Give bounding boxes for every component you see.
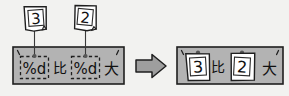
result-note-2[interactable]: 2 <box>230 52 256 82</box>
pin-dot-2 <box>83 54 87 58</box>
result-note-3-value: 3 <box>192 57 203 77</box>
pin-dot-1 <box>32 54 36 58</box>
result-note-3[interactable]: 3 <box>186 52 211 81</box>
format-literal-1: 比 <box>53 60 67 76</box>
sticky-note-3[interactable]: 3 <box>24 5 48 31</box>
result-literal-1: 比 <box>211 59 225 75</box>
sticky-note-3-value: 3 <box>31 10 42 29</box>
diagram-canvas: %d 比 %d 大 3 2 3 比 <box>0 0 289 96</box>
sticky-note-2-value: 2 <box>80 9 91 28</box>
placeholder-token-1: %d <box>23 60 47 78</box>
result-literal-2: 大 <box>262 60 277 78</box>
placeholder-token-2: %d <box>74 60 98 78</box>
sticky-note-2[interactable]: 2 <box>73 4 98 31</box>
result-note-2-value: 2 <box>236 57 247 77</box>
format-literal-2: 大 <box>104 60 119 78</box>
